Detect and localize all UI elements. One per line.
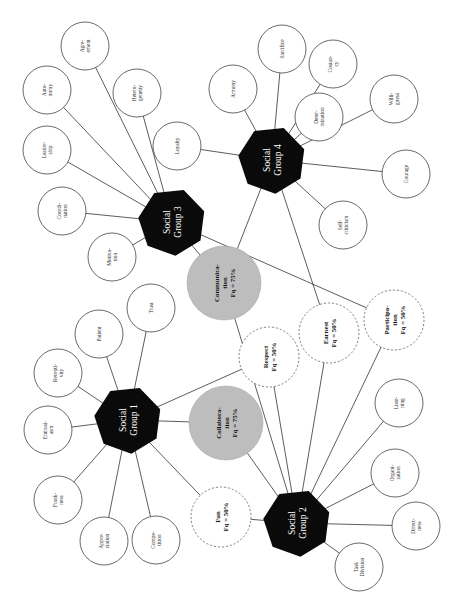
leaf-node-leadership: Leader-ship [23, 126, 71, 174]
group-label: SocialGroup 1 [118, 404, 139, 436]
node-label: Organi-zation [389, 464, 401, 481]
group-label: SocialGroup 2 [287, 507, 308, 539]
shared-node-fun: FunFq = 50% [191, 487, 251, 547]
leaf-node-enthusiasm: Enthusi-asm [24, 406, 72, 454]
node-label: Armony [230, 80, 236, 98]
social-group-1: SocialGroup 1 [94, 388, 160, 454]
leaf-node-motivation: Motiva-tion [88, 233, 136, 281]
shared-node-earnest: EarnestFq = 50% [299, 303, 359, 363]
group-label: SocialGroup 3 [162, 206, 183, 238]
leaf-node-loyalty: Loyalty [153, 122, 201, 170]
nodes-layer: Agre-ementAuto-nomyHetero-geneityLeader-… [23, 22, 440, 591]
leaf-node-trust: Trust [127, 284, 175, 332]
leaf-node-heterogeneity: Hetero-geneity [113, 69, 161, 117]
leaf-node-organization: Organi-zation [371, 449, 419, 497]
leaf-node-competition: Compe-tition [132, 516, 180, 564]
shared-node-participation: Participa-tionFq = 50% [364, 290, 424, 350]
leaf-node-willigness: Willi-gness [370, 75, 418, 123]
group-label: SocialGroup 4 [262, 144, 283, 176]
node-label: Courage [403, 164, 409, 183]
leaf-node-autonomy: Auto-nomy [23, 66, 71, 114]
leaf-node-appreciation: Appre-ciation [80, 517, 128, 565]
node-label: EarnestFq = 50% [322, 318, 337, 347]
leaf-node-patient: Patient [75, 310, 123, 358]
leaf-node-listening: Liste-ning [375, 379, 423, 427]
leaf-node-determination: Deter-mination [295, 93, 343, 141]
node-label: RespectFq = 50% [262, 342, 277, 371]
leaf-node-frankness: Frank-ness [34, 476, 82, 524]
network-diagram: Agre-ementAuto-nomyHetero-geneityLeader-… [0, 0, 461, 607]
leaf-node-coordination: Coordi-nation [38, 187, 86, 235]
node-label: Appre-ciation [98, 533, 110, 548]
node-label: Trust [148, 302, 154, 314]
leaf-node-selfcriticism: Self-criticism [319, 201, 367, 249]
leaf-node-armony: Armony [209, 65, 257, 113]
leaf-node-courage: Courage [382, 150, 430, 198]
shared-node-communication: Communica-tionFq = 75% [187, 246, 261, 320]
social-group-3: SocialGroup 3 [138, 190, 204, 256]
social-group-4: SocialGroup 4 [238, 128, 304, 194]
node-label: Liste-ning [393, 397, 405, 410]
node-label: Willi-gness [388, 92, 400, 105]
shared-node-respect: RespectFq = 50% [239, 327, 299, 387]
leaf-node-sacrifice: Sacrifice [258, 25, 306, 73]
leaf-node-costancy: Costan-cy [309, 40, 357, 88]
node-label: Hetero-geneity [131, 85, 143, 102]
node-label: Agre-ement [79, 39, 91, 53]
leaf-node-agreement: Agre-ement [61, 22, 109, 70]
node-label: Patient [96, 326, 102, 341]
social-group-2: SocialGroup 2 [263, 491, 329, 557]
node-label: Coordi-nation [56, 202, 68, 219]
shared-node-collaboration: Collabora-tionFq = 75% [189, 386, 263, 460]
leaf-node-receptivity: Recepti-vity [34, 349, 82, 397]
node-label: Auto-nomy [41, 84, 53, 97]
node-label: Loyalty [174, 137, 180, 154]
node-label: Sacrifice [279, 39, 285, 59]
leaf-node-directness: Direct-ness [392, 502, 440, 550]
leaf-node-taskdivision: TaskDivision [335, 543, 383, 591]
